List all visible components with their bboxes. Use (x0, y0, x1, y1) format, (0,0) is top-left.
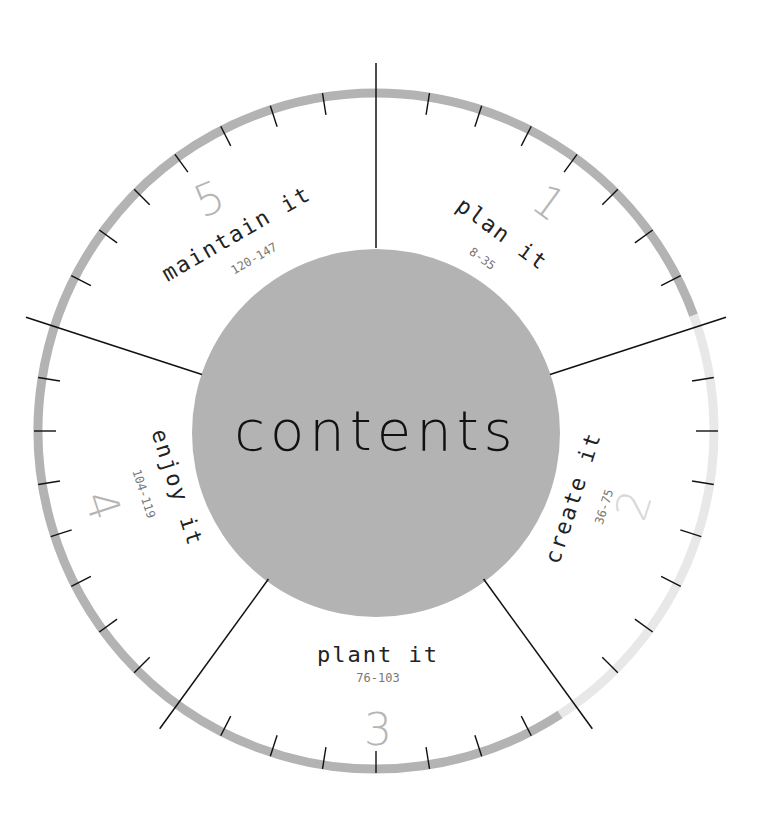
section-pages-4: 104-119 (129, 468, 158, 520)
section-number-2: 2 (605, 484, 662, 526)
section-plant-it[interactable]: plant it 76-103 3 (317, 642, 439, 755)
section-enjoy-it[interactable]: 4 enjoy it 104-119 (74, 426, 208, 550)
section-number-4: 4 (74, 484, 131, 526)
section-divider-line (160, 579, 269, 729)
section-maintain-it[interactable]: 5 maintain it 120-147 (157, 170, 315, 287)
section-number-5: 5 (187, 170, 232, 228)
section-label-3: plant it (317, 642, 439, 667)
section-number-1: 1 (523, 174, 576, 232)
section-pages-1: 8-35 (467, 245, 499, 273)
contents-title: contents (234, 398, 518, 463)
contents-wheel: contents 1 plan it 8-35 2 create it 36-7… (0, 0, 764, 835)
section-number-3: 3 (364, 704, 392, 755)
section-pages-3: 76-103 (356, 671, 399, 685)
section-plan-it[interactable]: 1 plan it 8-35 (452, 174, 576, 276)
section-divider-line (484, 579, 593, 729)
